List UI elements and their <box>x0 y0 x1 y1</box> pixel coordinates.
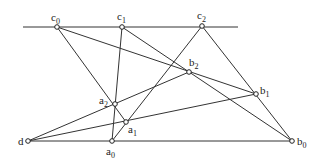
line-segment <box>28 94 256 141</box>
line-segment <box>28 72 189 141</box>
label-c1: c1 <box>117 11 126 25</box>
label-c2: c2 <box>197 10 206 24</box>
line-segment <box>112 27 122 141</box>
line-segment <box>57 27 126 122</box>
point-c2 <box>200 24 205 29</box>
point-d <box>26 139 31 144</box>
label-c0: c0 <box>51 12 60 26</box>
point-b1 <box>254 92 259 97</box>
label-d: d <box>18 136 24 147</box>
line-segment <box>202 26 292 141</box>
point-c1 <box>120 25 125 30</box>
label-a2: a2 <box>99 95 108 109</box>
point-b0 <box>290 139 295 144</box>
label-a1: a1 <box>128 124 137 138</box>
label-b1: b1 <box>260 85 270 99</box>
label-b2: b2 <box>189 57 199 71</box>
label-a0: a0 <box>106 146 115 160</box>
line-segment <box>122 27 292 141</box>
label-b0: b0 <box>297 136 307 150</box>
point-a0 <box>110 139 115 144</box>
diagram-canvas <box>0 0 324 162</box>
point-a2 <box>113 102 118 107</box>
perspective-diagram: c0 c1 c2 b2 b1 b0 a2 a1 a0 d <box>0 0 324 162</box>
